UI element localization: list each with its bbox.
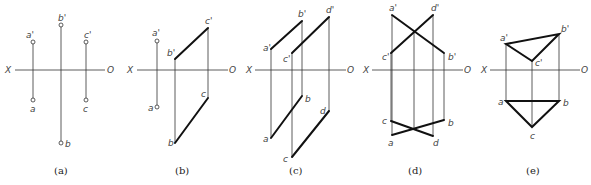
label-a: a <box>498 97 504 107</box>
label-c: c <box>530 131 535 141</box>
point-b <box>59 141 63 145</box>
label-a-prime: a' <box>389 3 397 13</box>
label-c-prime: c' <box>382 52 389 62</box>
label-c-prime: c' <box>535 58 542 68</box>
label-c: c <box>283 154 288 164</box>
label-a-prime: a' <box>152 28 160 38</box>
x-axis-label: X <box>126 65 134 75</box>
caption-a: (a) <box>54 165 68 176</box>
o-axis-label: O <box>347 65 354 75</box>
label-c: c <box>201 89 206 99</box>
line-a-prime-b-prime <box>271 21 302 49</box>
label-c-prime: c' <box>205 16 212 26</box>
caption-c: (c) <box>289 165 303 176</box>
label-c-prime: c' <box>84 30 91 40</box>
o-axis-label: O <box>581 65 588 75</box>
projection-diagram: X O a' a b' b c' c (a) X O a' a b' b c' … <box>0 0 591 185</box>
label-b: b <box>305 94 311 104</box>
caption-d: (d) <box>408 165 422 176</box>
label-c-prime: c' <box>283 54 290 64</box>
label-b-prime: b' <box>448 52 456 62</box>
line-a-prime-b-prime <box>392 15 444 53</box>
line-c-d <box>292 111 329 157</box>
label-b: b <box>563 98 569 108</box>
panel-e: X O a' b' c' a b c (e) <box>480 24 588 176</box>
point-a <box>155 105 159 109</box>
label-a: a <box>30 104 36 114</box>
label-b: b <box>448 118 454 128</box>
line-a-b <box>392 120 444 135</box>
label-b: b <box>168 138 174 148</box>
point-c-prime <box>84 40 88 44</box>
label-b-prime: b' <box>58 13 66 23</box>
x-axis-label: X <box>4 65 12 75</box>
caption-b: (b) <box>175 165 189 176</box>
label-d-prime: d' <box>326 5 334 15</box>
o-axis-label: O <box>229 65 236 75</box>
point-a-prime <box>155 39 159 43</box>
label-b-prime: b' <box>298 9 306 19</box>
triangle-top-view <box>506 101 559 127</box>
label-a: a <box>388 138 394 148</box>
point-a-prime <box>31 40 35 44</box>
label-a-prime: a' <box>263 43 271 53</box>
line-b-prime-c-prime <box>175 28 208 59</box>
panel-a: X O a' a b' b c' c (a) <box>4 13 114 176</box>
line-a-b <box>271 96 302 138</box>
label-a-prime: a' <box>500 33 508 43</box>
line-c-prime-d-prime <box>292 17 329 53</box>
label-c: c <box>83 104 88 114</box>
label-d-prime: d' <box>431 3 439 13</box>
o-axis-label: O <box>107 65 114 75</box>
line-b-c <box>175 98 208 143</box>
x-axis-label: X <box>245 65 253 75</box>
point-b-prime <box>59 23 63 27</box>
label-d: d <box>320 106 326 116</box>
panel-c: X O a' a b' b c' c d' d (c) <box>245 5 354 176</box>
label-a: a <box>148 103 154 113</box>
label-b-prime: b' <box>561 24 569 34</box>
caption-e: (e) <box>526 165 540 176</box>
panel-b: X O a' a b' b c' c (b) <box>126 16 236 176</box>
label-b-prime: b' <box>167 48 175 58</box>
label-b: b <box>65 139 71 149</box>
point-a <box>31 98 35 102</box>
point-c <box>84 98 88 102</box>
x-axis-label: X <box>480 65 488 75</box>
panel-d: X O a' a d' d c' c b' b (d) <box>362 3 471 176</box>
label-d: d <box>433 138 439 148</box>
label-a: a <box>263 134 269 144</box>
o-axis-label: O <box>464 65 471 75</box>
label-c: c <box>382 116 387 126</box>
line-c-prime-d-prime <box>391 15 433 53</box>
label-a-prime: a' <box>26 30 34 40</box>
x-axis-label: X <box>362 65 370 75</box>
triangle-front-view <box>506 34 559 61</box>
